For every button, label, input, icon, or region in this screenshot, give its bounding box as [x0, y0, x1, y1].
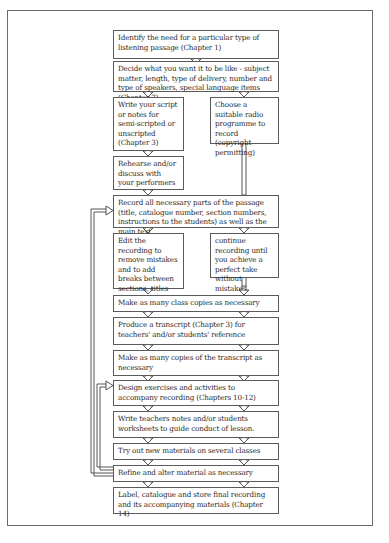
step-choose-radio: Choose a suitable radio programme to rec…	[210, 97, 279, 144]
step-notes: Write teachers notes and/or students wor…	[113, 411, 279, 438]
step-rehearse: Rehearse and/or discuss with your perfor…	[113, 156, 184, 190]
loop-refine-to-record	[91, 206, 113, 476]
step-try-out: Try out new materials on several classes	[113, 443, 279, 460]
step-decide: Decide what you want it to be like - sub…	[113, 61, 279, 92]
step-refine: Refine and alter material as necessary	[113, 465, 279, 482]
step-transcript-copies: Make as many copies of the transcript as…	[113, 350, 279, 376]
step-design: Design exercises and activities to accom…	[113, 380, 279, 406]
step-continue: continue recording until you achieve a p…	[210, 233, 279, 278]
step-class-copies: Make as many class copies as necessary	[113, 295, 279, 312]
step-identify: Identify the need for a particular type …	[113, 30, 279, 59]
step-record: Record all necessary parts of the passag…	[113, 195, 279, 228]
step-edit: Edit the recording to remove mistakes an…	[113, 233, 184, 289]
step-write-script: Write your script or notes for semi-scri…	[113, 97, 184, 151]
step-transcript: Produce a transcript (Chapter 3) for tea…	[113, 317, 279, 345]
loop-refine-to-design	[97, 381, 113, 470]
step-label: Label, catalogue and store final recordi…	[113, 487, 279, 514]
